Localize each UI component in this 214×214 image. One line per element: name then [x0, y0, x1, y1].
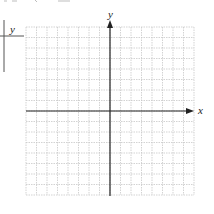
y-axis-arrow-icon — [107, 20, 113, 28]
side-table-y-label: y — [9, 23, 15, 35]
axes: x y — [26, 8, 203, 196]
coordinate-grid-figure: y x y — [0, 0, 214, 214]
side-table: y — [0, 20, 24, 72]
x-axis-arrow-icon — [186, 108, 194, 114]
y-axis-label: y — [107, 8, 113, 20]
top-fragment — [4, 0, 70, 2]
graph-worksheet: y x y — [0, 0, 214, 214]
x-axis-label: x — [197, 104, 203, 116]
